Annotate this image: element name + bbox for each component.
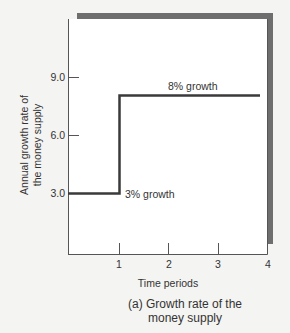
y-axis-title-line1: Annual growth rate of	[18, 95, 30, 195]
y-tick-label: 6.0	[50, 129, 65, 141]
x-axis-title: Time periods	[138, 277, 198, 289]
x-tick-label: 2	[166, 258, 172, 270]
y-tick-label: 3.0	[50, 187, 65, 199]
figure-caption-line1: (a) Growth rate of the	[100, 297, 270, 311]
annotation-8pct: 8% growth	[168, 80, 218, 92]
figure-caption-line2: money supply	[100, 311, 270, 325]
plot-area	[68, 19, 267, 254]
x-tick-label: 4	[265, 258, 271, 270]
y-axis-title-line2: the money supply	[31, 103, 43, 186]
x-tick-label: 1	[116, 258, 122, 270]
chart: 9.0 6.0 3.0 1 2 3 4 3% growth 8% growth …	[0, 0, 290, 333]
y-axis-title: Annual growth rate of the money supply	[18, 95, 43, 195]
y-tick-label: 9.0	[50, 71, 65, 83]
x-tick-label: 3	[215, 258, 221, 270]
annotation-3pct: 3% growth	[125, 188, 175, 200]
